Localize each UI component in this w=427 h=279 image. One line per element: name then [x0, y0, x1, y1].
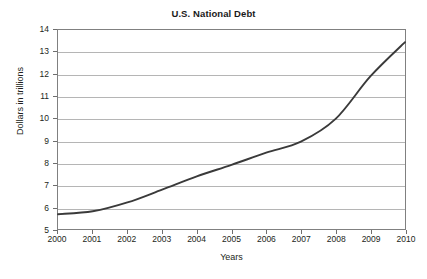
x-axis-tick-mark: [232, 230, 233, 234]
x-axis-tick-mark: [57, 230, 58, 234]
x-axis-tick-mark: [92, 230, 93, 234]
x-axis-tick-mark: [162, 230, 163, 234]
y-axis-tick-label: 14: [15, 24, 49, 34]
x-axis-tick-mark: [406, 230, 407, 234]
x-axis-title: Years: [57, 252, 406, 262]
chart-title: U.S. National Debt: [0, 8, 427, 19]
plot-area: [57, 29, 406, 230]
data-series-line: [58, 30, 405, 229]
x-axis-tick-label: 2010: [386, 234, 426, 244]
y-axis-tick-label: 9: [15, 136, 49, 146]
chart-container: U.S. National Debt Dollars in trillions …: [0, 0, 427, 279]
x-axis-tick-mark: [266, 230, 267, 234]
y-axis-tick-label: 8: [15, 158, 49, 168]
y-axis-tick-label: 10: [15, 113, 49, 123]
x-axis-tick-mark: [197, 230, 198, 234]
y-axis-tick-label: 12: [15, 69, 49, 79]
x-axis-tick-mark: [301, 230, 302, 234]
x-axis-tick-mark: [336, 230, 337, 234]
x-axis-tick-mark: [127, 230, 128, 234]
y-axis-tick-label: 7: [15, 180, 49, 190]
y-axis-tick-label: 6: [15, 203, 49, 213]
y-axis-tick-label: 13: [15, 46, 49, 56]
x-axis-tick-mark: [371, 230, 372, 234]
y-axis-tick-label: 11: [15, 91, 49, 101]
